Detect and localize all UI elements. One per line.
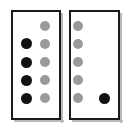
- left-panel[interactable]: [11, 10, 61, 120]
- left-panel-column-2-dot-2[interactable]: [40, 39, 50, 49]
- left-panel-column-2-dot-5[interactable]: [40, 93, 50, 103]
- left-panel-column-1-dot-2[interactable]: [21, 57, 32, 68]
- left-panel-column-1-dot-3[interactable]: [21, 75, 32, 86]
- left-panel-column-2-dot-4[interactable]: [40, 75, 50, 85]
- left-panel-column-2-dot-1[interactable]: [40, 21, 50, 31]
- right-panel-column-1-dot-5[interactable]: [73, 93, 83, 103]
- right-panel-shadow: [120, 13, 122, 123]
- left-panel-column-2-dot-3[interactable]: [40, 57, 50, 67]
- right-panel-column-1-dot-4[interactable]: [73, 75, 83, 85]
- diagram-canvas: [0, 0, 130, 130]
- left-panel-shadow: [61, 13, 63, 123]
- left-panel-column-1-dot-1[interactable]: [21, 38, 32, 49]
- right-panel-column-1-dot-1[interactable]: [73, 21, 83, 31]
- left-panel-column-1-dot-4[interactable]: [21, 93, 32, 104]
- right-panel-column-2-dot-1[interactable]: [99, 93, 110, 104]
- left-panel-shadow-bottom: [14, 120, 64, 122]
- right-panel-column-1-dot-3[interactable]: [73, 57, 83, 67]
- right-panel-shadow-bottom: [72, 120, 123, 122]
- right-panel-column-1-dot-2[interactable]: [73, 39, 83, 49]
